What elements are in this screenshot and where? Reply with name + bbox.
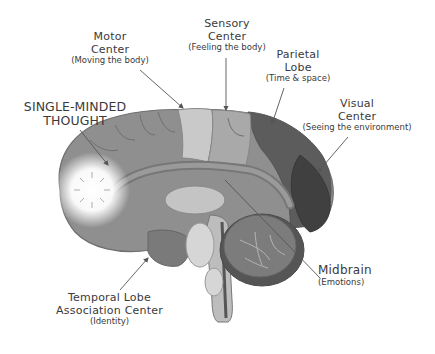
label-midbrain: Midbrain (Emotions) [318,264,378,288]
label-title: Visual [292,98,422,111]
temporal-lobe-shape [148,230,190,266]
thought-glow [54,152,130,228]
label-title: Midbrain [318,264,378,278]
label-temporal-lobe: Temporal Lobe Association Center (Identi… [52,292,167,327]
label-title: SINGLE-MINDED [10,100,140,114]
label-subtitle: (Seeing the environment) [292,123,422,133]
label-title: Parietal [258,49,338,62]
label-subtitle: (Identity) [52,317,167,327]
label-visual-center: Visual Center (Seeing the environment) [292,98,422,133]
label-motor-center: Motor Center (Moving the body) [60,31,160,66]
label-sensory-center: Sensory Center (Feeling the body) [172,18,282,53]
arrow-parietal [272,88,284,124]
cerebellum [220,214,304,286]
label-title: Motor [60,31,160,44]
brain-diagram: SINGLE-MINDED THOUGHT Motor Center (Movi… [0,0,435,354]
label-subtitle: (Time & space) [258,74,338,84]
label-parietal-lobe: Parietal Lobe (Time & space) [258,49,338,84]
label-single-minded-thought: SINGLE-MINDED THOUGHT [10,100,140,129]
arrow-temporal [120,258,148,290]
label-title: THOUGHT [10,114,140,128]
label-subtitle: (Emotions) [318,278,378,288]
arrow-visual [318,137,348,172]
label-title: Sensory [172,18,282,31]
arrow-motor [140,70,183,108]
label-title: Temporal Lobe [52,292,167,305]
label-subtitle: (Moving the body) [60,56,160,66]
